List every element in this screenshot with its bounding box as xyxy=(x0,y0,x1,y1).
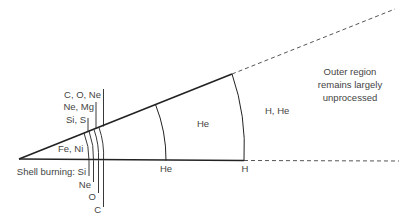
shell-label-c: C xyxy=(94,204,101,215)
dashed-top-extension xyxy=(232,9,395,74)
stellar-shell-diagram: C, O, Ne Ne, Mg Si, S Fe, Ni Shell burni… xyxy=(0,0,419,221)
ne-shell-arc xyxy=(89,131,94,182)
outer-note-line-1: Outer region xyxy=(324,66,377,77)
outer-note-line-2: remains largely xyxy=(318,79,383,90)
envelope-label: H, He xyxy=(265,105,289,116)
h-shell-arc xyxy=(232,74,244,161)
he-shell-label: He xyxy=(160,163,172,174)
h-shell-label: H xyxy=(242,163,249,174)
wedge-bottom-line xyxy=(19,159,244,161)
shell-label-o: O xyxy=(89,191,96,202)
outer-note-line-3: unprocessed xyxy=(323,92,377,103)
core-label: Fe, Ni xyxy=(58,143,83,154)
o-shell-arc xyxy=(94,130,99,194)
upper-label-si-s: Si, S xyxy=(66,114,86,125)
upper-label-ne-mg: Ne, Mg xyxy=(63,101,94,112)
c-shell-arc xyxy=(99,128,104,208)
he-shell-arc xyxy=(156,105,167,161)
he-zone-label: He xyxy=(197,118,209,129)
shell-label-ne: Ne xyxy=(79,179,91,190)
shell-burning-label: Shell burning: Si xyxy=(17,166,86,177)
upper-label-c-o-ne: C, O, Ne xyxy=(64,89,101,100)
wedge-top-line xyxy=(19,74,232,159)
dashed-bottom-extension xyxy=(244,161,399,162)
